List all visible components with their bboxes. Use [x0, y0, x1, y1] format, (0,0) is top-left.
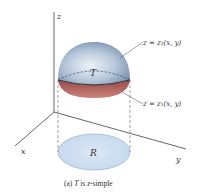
- z-axis-label: z: [56, 12, 62, 21]
- z-simple-diagram: z x y R T z = z₂(x, y) z = z₁(x, y) (a) …: [0, 0, 197, 194]
- lower-surface-label: z = z₁(x, y): [142, 100, 182, 108]
- x-axis: [15, 112, 54, 146]
- y-axis-label: y: [175, 155, 181, 164]
- solid-T: T: [58, 42, 130, 98]
- x-axis-label: x: [21, 147, 26, 156]
- region-label: R: [89, 148, 97, 158]
- lower-leader: [122, 92, 143, 104]
- upper-surface: [58, 42, 130, 85]
- figure-caption: (a) T is z-simple: [64, 179, 113, 188]
- solid-label: T: [90, 68, 97, 78]
- upper-surface-label: z = z₂(x, y): [142, 39, 182, 47]
- upper-leader: [120, 42, 143, 58]
- region-R: R: [58, 134, 130, 170]
